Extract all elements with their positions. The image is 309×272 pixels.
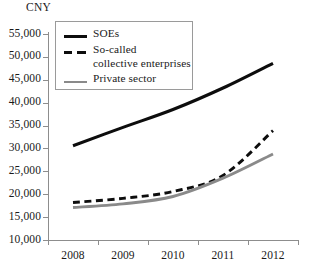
y-axis-tick-label: 55,000 (9, 27, 41, 39)
legend-item-private-sector: Private sector (63, 72, 156, 87)
y-axis-tick (43, 103, 49, 104)
legend-swatch-solid-gray-icon (63, 76, 88, 87)
line-chart: CNY 10,00015,00020,00025,00030,00035,000… (0, 0, 309, 272)
y-axis-tick-label: 50,000 (9, 49, 41, 61)
y-axis-line (48, 32, 49, 241)
y-axis-tick (43, 34, 49, 35)
x-axis-tick (248, 240, 249, 245)
y-axis-tick-label: 35,000 (9, 118, 41, 130)
legend-item-collective-enterprises: So-called collective enterprises (63, 43, 191, 70)
y-axis-tick-label: 25,000 (9, 164, 41, 176)
legend-item-soes: SOEs (63, 27, 119, 42)
y-axis-tick (43, 80, 49, 81)
x-axis-tick (298, 240, 299, 245)
y-axis-tick-label: 10,000 (9, 233, 41, 245)
x-axis-tick (98, 240, 99, 245)
x-axis-tick-label: 2009 (98, 249, 148, 261)
y-axis-tick-label: 20,000 (9, 187, 41, 199)
x-axis-tick (48, 240, 49, 245)
x-axis-tick (148, 240, 149, 245)
x-axis-line (48, 240, 298, 241)
y-axis-tick (43, 57, 49, 58)
y-axis-unit-label: CNY (26, 1, 51, 13)
y-axis-tick (43, 194, 49, 195)
series-line-private-sector (73, 154, 273, 208)
x-axis-tick-label: 2011 (198, 249, 248, 261)
y-axis-tick (43, 217, 49, 218)
y-axis-tick-label: 30,000 (9, 141, 41, 153)
legend-label-private-sector: Private sector (93, 72, 156, 86)
y-axis-tick-label: 15,000 (9, 210, 41, 222)
chart-legend: SOEs So-called collective enterprises Pr… (55, 21, 193, 90)
y-axis-tick-label: 45,000 (9, 72, 41, 84)
x-axis-tick-label: 2012 (248, 249, 298, 261)
y-axis-tick-label: 40,000 (9, 95, 41, 107)
x-axis-tick (198, 240, 199, 245)
x-axis-tick-label: 2008 (48, 249, 98, 261)
y-axis-tick (43, 126, 49, 127)
y-axis-tick (43, 148, 49, 149)
legend-swatch-solid-black-icon (63, 31, 88, 42)
series-line-collective-enterprises (73, 131, 273, 203)
x-axis-tick-label: 2010 (148, 249, 198, 261)
y-axis-tick (43, 171, 49, 172)
legend-label-soes: SOEs (93, 27, 119, 41)
legend-label-collective-enterprises: So-called collective enterprises (93, 43, 191, 70)
legend-swatch-dashed-black-icon (63, 47, 88, 58)
